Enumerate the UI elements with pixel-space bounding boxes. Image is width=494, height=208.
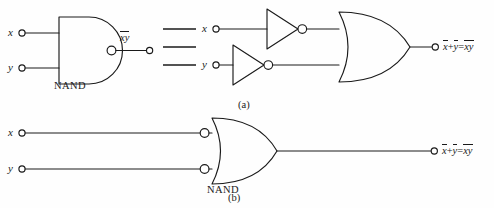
inverter-1-triangle xyxy=(267,9,298,49)
input-label-y-b: y xyxy=(8,163,13,174)
overbar-xy-a: xy xyxy=(120,31,129,43)
row-b-circuit xyxy=(19,118,438,184)
input-terminal-y-a2[interactable] xyxy=(213,62,219,68)
input-label-y-a2: y xyxy=(202,59,207,70)
caption-b: (b) xyxy=(228,193,240,204)
input-terminal-y-a[interactable] xyxy=(19,65,25,71)
input-terminal-y-b[interactable] xyxy=(19,166,25,172)
input-terminal-x-b[interactable] xyxy=(19,130,25,136)
output-terminal-b[interactable] xyxy=(431,148,437,154)
equation-a-result: xy xyxy=(464,40,473,52)
inverter-1-bubble xyxy=(298,25,307,34)
inverter-2-triangle xyxy=(233,45,264,85)
row-a-right-or-circuit xyxy=(213,9,439,85)
gate-input-bubble-x-b xyxy=(200,129,209,138)
row-a-left-nand-circuit xyxy=(19,17,153,84)
or-gate-body-b xyxy=(212,118,277,184)
input-label-y-a: y xyxy=(8,62,13,73)
inverter-2-bubble xyxy=(264,61,273,70)
caption-a: (a) xyxy=(238,100,250,111)
output-terminal-a-right[interactable] xyxy=(432,44,438,50)
figure-canvas: x y NAND xy x y x+y=xy (a) x y NAND x+y=… xyxy=(0,0,494,208)
output-terminal-a-left[interactable] xyxy=(147,47,153,53)
equivalence-symbol-bars xyxy=(163,29,196,65)
input-label-x-a2: x xyxy=(202,23,207,34)
input-label-x-a: x xyxy=(8,27,13,38)
input-terminal-x-a[interactable] xyxy=(19,30,25,36)
input-label-x-b: x xyxy=(8,127,13,138)
equation-b-result: xy xyxy=(463,144,472,156)
output-equation-b: x+y=xy xyxy=(442,144,473,157)
output-equation-a: x+y=xy xyxy=(443,40,474,53)
or-gate-body-a xyxy=(339,12,410,82)
gate-label-nand-a: NAND xyxy=(54,81,86,92)
nand-output-bubble-a xyxy=(107,46,116,55)
input-terminal-x-a2[interactable] xyxy=(213,26,219,32)
gate-input-bubble-y-b xyxy=(200,165,209,174)
output-label-nand-a: xy xyxy=(120,31,129,44)
